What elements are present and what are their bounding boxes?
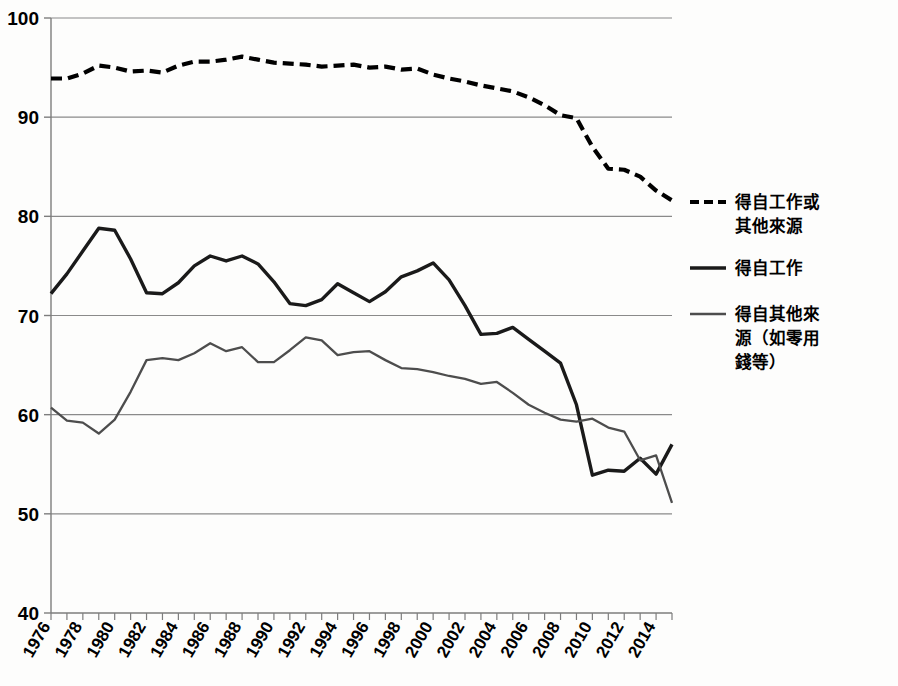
legend-label-2-line-0: 得自其他來 [734, 304, 820, 323]
legend-label-2-line-2: 錢等） [735, 352, 786, 371]
legend-label-2-line-1: 源（如零用 [735, 328, 820, 347]
x-tick-label-1992: 1992 [274, 619, 309, 661]
x-tick-label-1986: 1986 [178, 619, 213, 661]
x-tick-label-1994: 1994 [306, 618, 342, 661]
x-tick-label-1988: 1988 [210, 619, 245, 661]
x-tick-label-2012: 2012 [592, 619, 627, 661]
x-tick-label-2004: 2004 [465, 618, 501, 661]
chart-figure: 405060708090100 197619781980198219841986… [0, 0, 898, 686]
grid-lines [51, 18, 672, 514]
x-tick-label-1998: 1998 [369, 619, 404, 661]
x-tick-label-2010: 2010 [560, 619, 595, 661]
y-tick-label-90: 90 [18, 107, 39, 128]
x-tick-label-1976: 1976 [19, 619, 54, 661]
legend-label-0-line-0: 得自工作或 [734, 192, 820, 211]
line-chart: 405060708090100 197619781980198219841986… [0, 0, 898, 686]
legend-label-0-line-1: 其他來源 [735, 216, 803, 235]
y-axis [44, 18, 51, 613]
series-line-2 [51, 337, 672, 503]
data-series [51, 57, 672, 503]
y-tick-label-70: 70 [18, 306, 39, 327]
series-line-0 [51, 57, 672, 201]
x-tick-label-1996: 1996 [338, 619, 373, 661]
y-tick-label-80: 80 [18, 206, 39, 227]
x-tick-label-2014: 2014 [624, 618, 660, 661]
chart-legend: 得自工作或其他來源得自工作得自其他來源（如零用錢等） [690, 192, 820, 371]
x-tick-label-1984: 1984 [146, 618, 182, 661]
x-tick-label-2002: 2002 [433, 619, 468, 661]
y-tick-label-100: 100 [7, 8, 39, 29]
y-tick-labels: 405060708090100 [7, 8, 39, 624]
x-tick-label-2008: 2008 [529, 619, 564, 661]
x-tick-label-1982: 1982 [115, 619, 150, 661]
legend-label-1-line-0: 得自工作 [734, 258, 803, 277]
x-tick-label-2000: 2000 [401, 619, 436, 661]
x-tick-label-1980: 1980 [83, 619, 118, 661]
x-tick-label-1990: 1990 [242, 619, 277, 661]
y-tick-label-50: 50 [18, 504, 39, 525]
x-tick-labels: 1976197819801982198419861988199019921994… [19, 618, 660, 661]
y-tick-label-60: 60 [18, 405, 39, 426]
x-tick-label-1978: 1978 [51, 619, 86, 661]
x-tick-label-2006: 2006 [497, 619, 532, 661]
